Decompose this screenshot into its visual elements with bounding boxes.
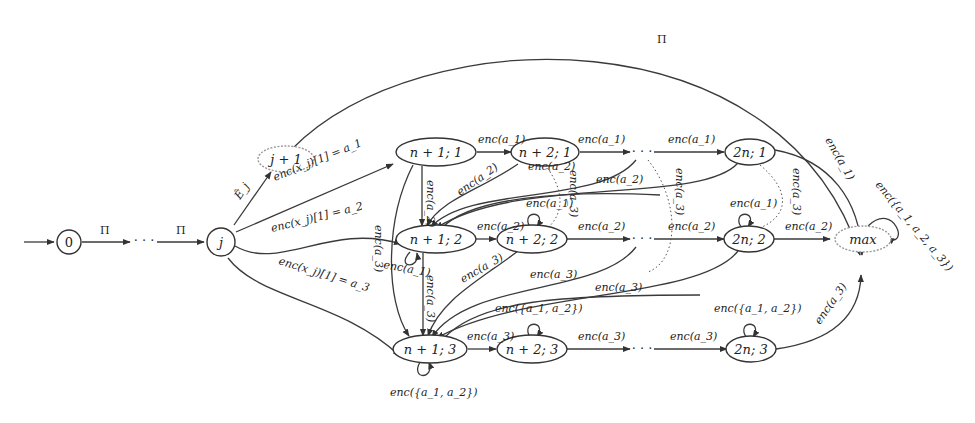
label-n11-n12: enc(a_2): [424, 180, 437, 227]
label-ell1-2n1: enc(a_1): [668, 133, 715, 146]
ellipsis-row3: · · ·: [632, 341, 653, 356]
label-n12-n22: enc(a_2): [477, 220, 524, 233]
label-n11-n21: enc(a_1): [478, 133, 525, 146]
ellipsis-row1: · · ·: [632, 144, 653, 159]
label-n21-n12: enc(a_2): [454, 161, 500, 199]
label-2n2-max: enc(a_2): [785, 220, 832, 233]
label-n23-ell3: enc(a_3): [578, 330, 625, 343]
node-max: max: [835, 226, 891, 252]
label-loop-n22: enc(a_1): [526, 197, 573, 210]
node-n1-1: n + 1; 1: [396, 138, 476, 166]
label-2n2-n13: enc(a_3): [595, 281, 642, 294]
label-ell3-2n3: enc(a_3): [670, 330, 717, 343]
svg-text:n + 2; 3: n + 2; 3: [506, 342, 559, 357]
svg-text:2n; 2: 2n; 2: [731, 232, 765, 247]
svg-text:2n; 3: 2n; 3: [733, 342, 767, 357]
node-n1-2: n + 1; 2: [396, 225, 476, 253]
loop-2n2: [739, 214, 751, 227]
label-ell2-2n2: enc(a_2): [668, 220, 715, 233]
label-n22-ell2: enc(a_2): [578, 220, 625, 233]
label-2n1-max: enc(a_1): [822, 135, 857, 183]
label-loop-2n2: enc(a_1): [730, 197, 777, 210]
node-2n-2: 2n; 2: [724, 226, 774, 252]
label-dotted-col3: enc(a_3): [673, 168, 686, 215]
svg-text:max: max: [849, 232, 877, 247]
label-pi-top: Π: [657, 33, 667, 46]
edge-n21-n12: [427, 164, 518, 226]
svg-text:n + 2; 2: n + 2; 2: [506, 232, 559, 247]
label-n22-n13: enc(a_3): [458, 251, 506, 286]
label-pi-2: Π: [176, 224, 186, 237]
label-loop-max: enc({a_1, a_2, a_3}): [873, 179, 956, 274]
label-x-a2: enc(x_j)[1] = a_2: [270, 199, 365, 234]
svg-text:0: 0: [65, 235, 73, 250]
automaton-diagram: 0 · · · j j + 1 n + 1; 1 n + 2; 1 · · · …: [0, 0, 975, 423]
label-n12-n13: enc(a_3): [424, 275, 437, 322]
label-dotted-col4: enc(a_3): [790, 168, 803, 215]
edge-n22-n13: [428, 251, 518, 336]
label-loop-n12: enc(a_1): [382, 258, 431, 279]
svg-text:n + 2; 1: n + 2; 1: [519, 145, 572, 160]
label-loop-n13: enc({a_1, a_2}): [390, 386, 477, 399]
label-x-a3: enc(x_j)[1] = a_3: [277, 254, 371, 294]
node-j: j: [207, 228, 235, 256]
svg-text:2n; 1: 2n; 1: [732, 145, 766, 160]
label-pi-1: Π: [100, 224, 110, 237]
ellipsis-row2: · · ·: [632, 231, 653, 246]
svg-text:n + 1; 3: n + 1; 3: [404, 342, 457, 357]
node-0: 0: [57, 230, 81, 254]
svg-text:n + 1; 1: n + 1; 1: [410, 145, 463, 160]
label-dotted-col2: enc(a_3): [567, 170, 580, 217]
label-loop-n23: enc({a_1, a_2}): [495, 302, 582, 315]
edge-n11-n13: [391, 165, 413, 336]
label-2n1-n12: enc(a_2): [596, 173, 643, 186]
label-n21-ell1: enc(a_1): [578, 133, 625, 146]
label-ej: Ê_j: [230, 179, 252, 202]
node-2n-3: 2n; 3: [726, 336, 776, 362]
node-n1-3: n + 1; 3: [393, 335, 467, 363]
ellipsis-0-j: · · ·: [134, 233, 155, 248]
label-loop-2n3: enc({a_1, a_2}): [714, 302, 801, 315]
label-n13-n23: enc(a_3): [467, 330, 514, 343]
label-ell2-n13: enc(a_3): [530, 268, 577, 281]
loop-2n3: [744, 324, 756, 337]
svg-text:n + 1; 2: n + 1; 2: [410, 232, 463, 247]
dotted-arc-col3: [648, 160, 672, 272]
node-2n-1: 2n; 1: [725, 139, 775, 165]
loop-n13: [418, 362, 430, 376]
